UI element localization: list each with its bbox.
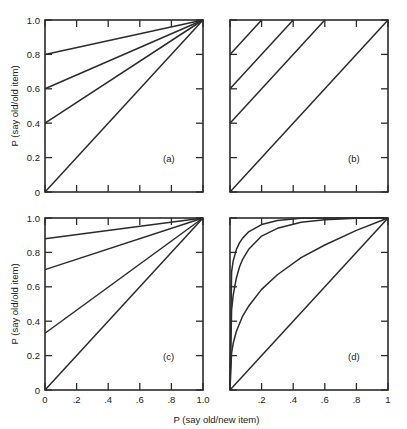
panel-label-c: (c)	[163, 351, 174, 362]
x-ticklabel-d: .6	[321, 394, 329, 405]
x-ticklabel-d: .2	[258, 394, 266, 405]
x-ticklabel-c: .2	[73, 394, 81, 405]
roc-figure: (a)(b)(c)(d)1.00.80.60.40.201.00.80.60.4…	[0, 0, 407, 429]
series-b-0	[230, 20, 262, 54]
y-axis-title-top: P (say old/old item)	[9, 65, 20, 146]
series-a-1	[45, 20, 203, 89]
y-ticklabel-c: 1.0	[27, 213, 40, 224]
x-ticklabel-c: .6	[136, 394, 144, 405]
x-axis-title: P (say old/new item)	[174, 414, 260, 425]
x-ticklabel-d: .8	[352, 394, 360, 405]
series-b-2	[230, 20, 325, 123]
y-ticklabel-a: 0.2	[27, 152, 40, 163]
x-ticklabel-c: 1.0	[196, 394, 209, 405]
y-ticklabel-a: 1.0	[27, 15, 40, 26]
x-ticklabel-d: .4	[289, 394, 297, 405]
panel-label-b: (b)	[348, 153, 360, 164]
x-ticklabel-c: .4	[104, 394, 112, 405]
y-ticklabel-a: 0	[35, 187, 40, 198]
y-ticklabel-c: 0.2	[27, 350, 40, 361]
figure-canvas: (a)(b)(c)(d)1.00.80.60.40.201.00.80.60.4…	[0, 0, 407, 429]
x-ticklabel-d: 1	[385, 394, 390, 405]
y-ticklabel-a: 0.4	[27, 118, 40, 129]
series-b-1	[230, 20, 293, 89]
x-ticklabel-c: 0	[42, 394, 47, 405]
series-b-3	[230, 20, 388, 192]
panel-label-a: (a)	[163, 153, 175, 164]
y-ticklabel-c: 0	[35, 385, 40, 396]
y-ticklabel-c: 0.8	[27, 247, 40, 258]
y-ticklabel-a: 0.8	[27, 49, 40, 60]
y-ticklabel-c: 0.4	[27, 316, 40, 327]
y-ticklabel-c: 0.6	[27, 281, 40, 292]
series-a-0	[45, 20, 203, 54]
panel-label-d: (d)	[348, 351, 360, 362]
series-a-2	[45, 20, 203, 123]
x-ticklabel-c: .8	[167, 394, 175, 405]
y-axis-title-bottom: P (say old/old item)	[9, 263, 20, 344]
y-ticklabel-a: 0.6	[27, 83, 40, 94]
series-a-3	[45, 20, 203, 192]
